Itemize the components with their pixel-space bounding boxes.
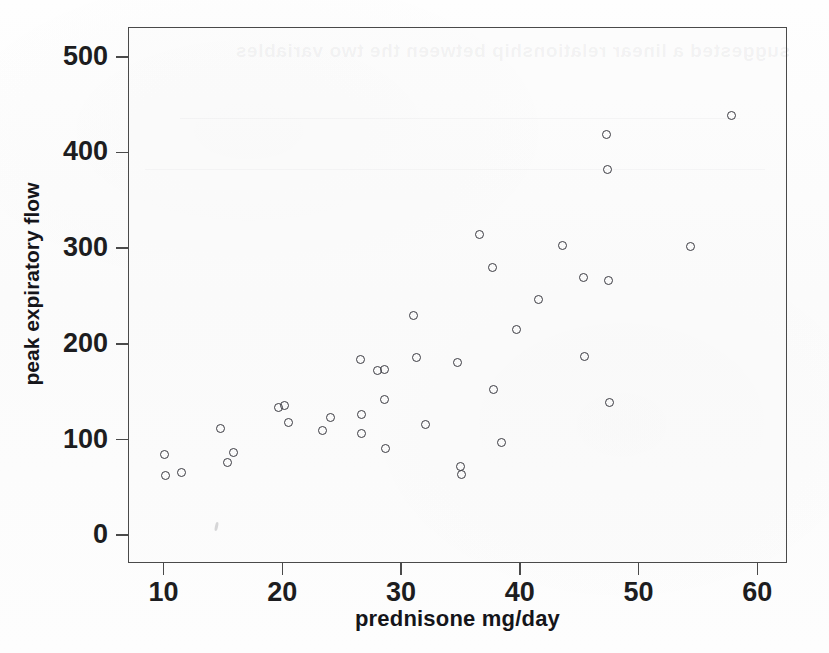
data-point [497, 438, 506, 447]
x-axis-tick [519, 563, 521, 575]
data-point [326, 413, 335, 422]
y-axis-tick [116, 247, 128, 249]
data-point [356, 355, 365, 364]
x-axis-tick-label: 30 [386, 577, 416, 608]
data-point [161, 471, 170, 480]
y-axis-tick [116, 534, 128, 536]
data-point [457, 470, 466, 479]
x-axis-tick [400, 563, 402, 575]
data-point [409, 311, 418, 320]
data-point [421, 420, 430, 429]
y-axis-tick-label: 200 [8, 327, 108, 358]
y-axis-tick-label: 300 [8, 232, 108, 263]
plot-area [128, 27, 787, 563]
data-point [216, 424, 225, 433]
y-axis-tick [116, 439, 128, 441]
data-point [318, 426, 327, 435]
data-point [489, 385, 498, 394]
y-axis-tick-label: 400 [8, 136, 108, 167]
data-point [357, 429, 366, 438]
scatter-plot-figure: suggested a linear relationship between … [0, 0, 829, 653]
data-point [534, 295, 543, 304]
data-point [488, 263, 497, 272]
y-axis-tick-label: 100 [8, 423, 108, 454]
x-axis-tick [163, 563, 165, 575]
y-axis-tick-label: 500 [8, 40, 108, 71]
data-point [223, 458, 232, 467]
x-axis-tick-label: 50 [624, 577, 654, 608]
x-axis-tick [757, 563, 759, 575]
data-point [602, 130, 611, 139]
data-point [686, 242, 695, 251]
data-point [603, 165, 612, 174]
x-axis-title: prednisone mg/day [128, 606, 787, 632]
x-axis-tick-label: 20 [267, 577, 297, 608]
data-point [412, 353, 421, 362]
data-point [604, 276, 613, 285]
data-point [580, 352, 589, 361]
data-point [284, 418, 293, 427]
data-point [160, 450, 169, 459]
data-point [381, 444, 390, 453]
data-point [357, 410, 366, 419]
x-axis-tick-label: 40 [505, 577, 535, 608]
y-axis-tick [116, 343, 128, 345]
x-axis-tick-label: 60 [742, 577, 772, 608]
data-point [280, 401, 289, 410]
data-point [727, 111, 736, 120]
x-axis-tick [638, 563, 640, 575]
data-point [380, 395, 389, 404]
data-point [475, 230, 484, 239]
data-point [177, 468, 186, 477]
data-point [229, 448, 238, 457]
data-point [453, 358, 462, 367]
data-point [579, 273, 588, 282]
x-axis-tick [282, 563, 284, 575]
data-point [605, 398, 614, 407]
y-axis-label-layer: peak expiratory flow 0100200300400500 [0, 0, 124, 653]
y-axis-tick [116, 56, 128, 58]
y-axis-tick [116, 152, 128, 154]
y-axis-ticks [129, 28, 786, 562]
y-axis-tick-label: 0 [8, 519, 108, 550]
data-point [512, 325, 521, 334]
x-axis-tick-label: 10 [149, 577, 179, 608]
data-point [558, 241, 567, 250]
y-axis-title: peak expiratory flow [20, 74, 44, 494]
data-point [380, 365, 389, 374]
